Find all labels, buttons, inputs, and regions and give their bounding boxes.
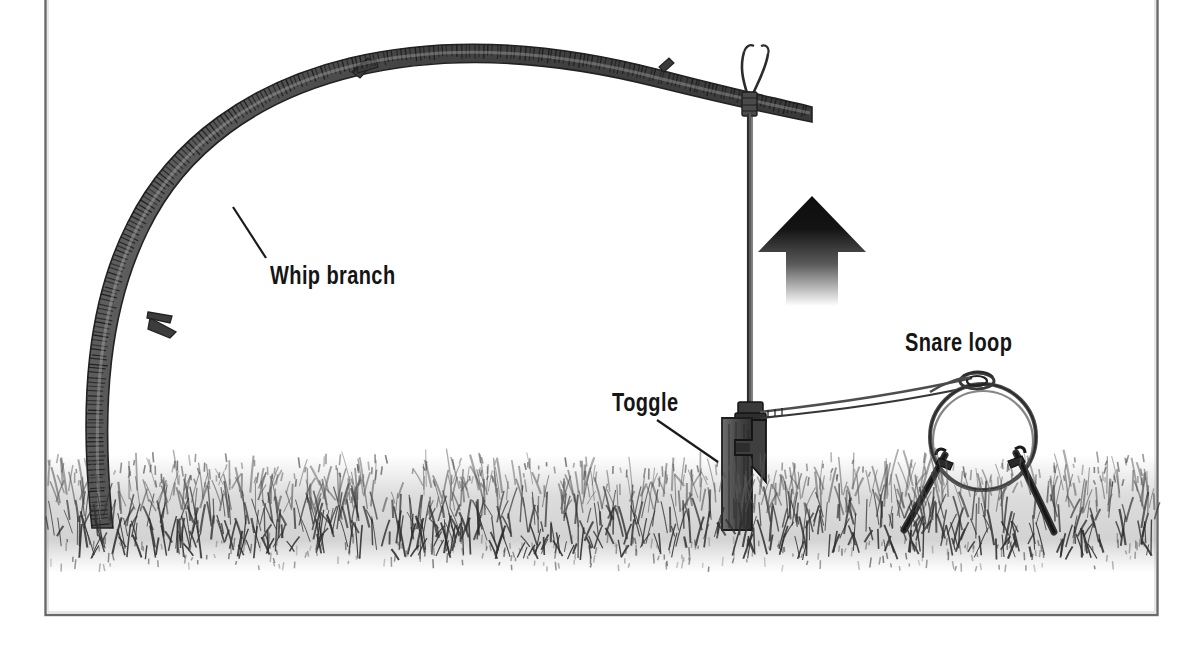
snare-trap-diagram: Whip branch Toggle Snare loop bbox=[0, 0, 1198, 645]
leader-whip-branch bbox=[233, 207, 266, 258]
diagram-canvas bbox=[0, 0, 1198, 645]
label-snare-loop: Snare loop bbox=[905, 330, 1012, 355]
label-whip-branch: Whip branch bbox=[270, 263, 396, 288]
whip-branch bbox=[85, 39, 812, 528]
label-toggle: Toggle bbox=[612, 390, 678, 415]
leader-lines bbox=[233, 207, 718, 462]
direction-arrow-icon bbox=[758, 196, 866, 306]
